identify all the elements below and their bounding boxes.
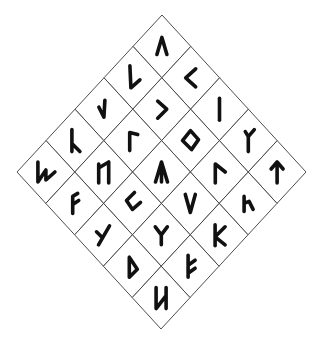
- diagram-caption: [0, 339, 326, 347]
- rune-grid-diagram: Λ<ᛁᛉᛏᛚᛃᛜᚴᚢᛚᚴᛦVKᛅᚺᚲYᚠᚹᚨᛉᚦᚾ: [0, 0, 326, 347]
